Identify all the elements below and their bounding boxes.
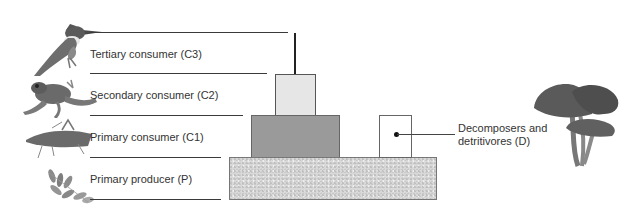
label-tertiary-consumer: Tertiary consumer (C3) [90,48,202,61]
c3-bar [294,33,296,74]
secondary-consumer-block [275,74,316,116]
level-line-c3-c2 [90,73,267,74]
energy-pyramid-diagram: Tertiary consumer (C3) Secondary consume… [0,0,638,216]
primary-producer-block [229,157,437,200]
label-primary-consumer: Primary consumer (C1) [90,131,204,144]
label-primary-producer: Primary producer (P) [90,173,192,186]
grasshopper-icon [22,118,97,158]
decomposers-pointer-line [397,134,455,135]
leaves-icon [38,168,96,206]
level-line-c1-p [90,157,221,158]
label-decomposers-line2: detritivores (D) [458,135,530,148]
label-decomposers-line1: Decomposers and [458,122,547,135]
level-line-bottom [90,199,221,200]
level-line-c2-c1 [90,115,243,116]
label-secondary-consumer: Secondary consumer (C2) [90,89,218,102]
level-line-top [90,32,288,33]
primary-consumer-block [251,115,340,158]
